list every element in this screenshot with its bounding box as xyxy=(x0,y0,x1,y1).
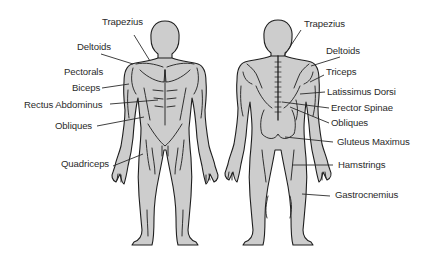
label-front-deltoids: Deltoids xyxy=(77,41,111,52)
label-front-rectus-abdominus: Rectus Abdominus xyxy=(24,99,102,110)
label-front-trapezius: Trapezius xyxy=(102,16,143,27)
label-back-deltoids: Deltoids xyxy=(326,45,360,56)
label-back-hamstrings: Hamstrings xyxy=(338,159,386,170)
label-front-obliques: Obliques xyxy=(55,120,92,131)
label-back-latissimus-dorsi: Latissimus Dorsi xyxy=(327,86,396,97)
label-back-gastrocnemius: Gastrocnemius xyxy=(335,189,398,200)
label-back-erector-spinae: Erector Spinae xyxy=(331,102,393,113)
front-figure xyxy=(112,21,218,245)
label-back-triceps: Triceps xyxy=(326,66,356,77)
label-front-pectorals: Pectorals xyxy=(64,66,103,77)
label-front-quadriceps: Quadriceps xyxy=(61,158,109,169)
label-back-gluteus-maximus: Gluteus Maximus xyxy=(337,136,410,147)
muscle-diagram: Trapezius Deltoids Pectorals Biceps Rect… xyxy=(0,0,431,254)
back-figure xyxy=(225,20,331,245)
label-back-obliques: Obliques xyxy=(331,117,368,128)
label-front-biceps: Biceps xyxy=(72,82,100,93)
label-back-trapezius: Trapezius xyxy=(304,18,345,29)
